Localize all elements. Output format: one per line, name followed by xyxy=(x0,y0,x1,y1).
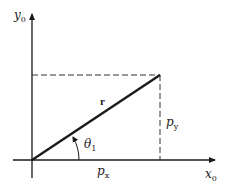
diagram-canvas xyxy=(0,0,228,193)
angle-label: θ1 xyxy=(84,138,96,153)
y-axis-label: y0 xyxy=(14,9,26,24)
x-axis-label: x0 xyxy=(205,168,217,183)
angle-arc xyxy=(73,137,79,160)
vector-diagram: y0 x0 r θ1 px py xyxy=(0,0,228,193)
py-label: py xyxy=(166,116,178,131)
vector-label: r xyxy=(100,96,105,107)
px-label: px xyxy=(97,165,109,180)
